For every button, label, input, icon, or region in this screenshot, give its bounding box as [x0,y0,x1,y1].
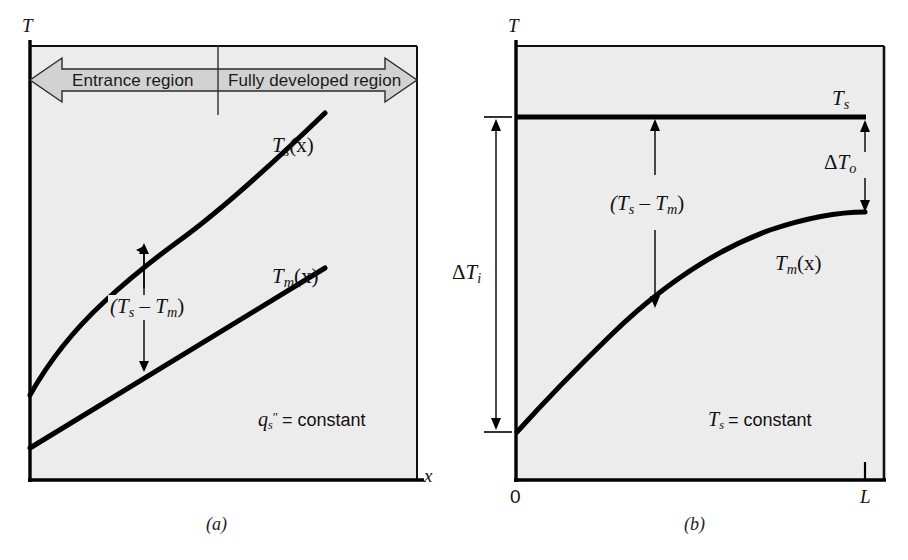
panel-a-mean-curve-label: Tm(x) [272,266,319,289]
panel-a-surface-curve-label-arg: (x) [289,133,314,157]
minus-sign: – [634,191,655,215]
panel-b-y-axis-label: T [508,16,519,35]
surface-temp-symbol-sub: s [719,418,724,432]
panel-b-mean-curve-label-T: T [775,251,787,275]
panel-b-mean-curve-label-sub: m [787,261,797,277]
panel-b-condition-note: Ts= constant [708,409,811,432]
panel-a-caption: (a) [206,515,227,533]
heat-flux-constant-text: = constant [282,410,366,430]
panel-b-caption: (b) [684,515,705,533]
second-T: T [655,191,667,215]
minus-sign: – [134,294,155,318]
panel-a-mean-curve-label-arg: (x) [294,264,319,288]
first-T: T [117,294,129,318]
thermal-entry-figure: T x Entrance region Fully developed regi… [0,0,908,560]
panel-a-mean-curve-label-T: T [272,264,284,288]
panel-b-temperature-difference-label: (Ts – Tm) [608,192,686,217]
panel-b-surface-line-label-sub: s [844,96,850,112]
first-T: T [617,191,629,215]
paren-close: ) [177,294,184,318]
panel-b-mean-curve-label-arg: (x) [797,251,822,275]
panel-a-mean-curve-label-sub: m [284,274,294,290]
panel-b-surface-line-label: Ts [832,88,849,111]
surface-temp-symbol: T [708,408,719,430]
panel-a-y-axis-label: T [22,16,33,35]
panel-b-mean-curve-label: Tm(x) [775,253,822,276]
heat-flux-symbol-sup: ″ [273,409,278,424]
panel-b-surface-line-label-T: T [832,86,844,110]
entrance-region-label: Entrance region [72,72,194,89]
second-T: T [155,294,167,318]
panel-b-x-tick-label-0: 0 [510,487,521,506]
panel-a-condition-note: qs″= constant [258,409,365,432]
panel-a-surface-curve-label: Ts(x) [272,135,314,158]
panel-a-temperature-difference-label: (Ts – Tm) [108,295,186,320]
surface-temp-constant-text: = constant [728,410,812,430]
fully-developed-region-label: Fully developed region [228,72,401,89]
second-T-sub: m [167,304,177,320]
delta-Ti-T: T [466,260,478,284]
second-T-sub: m [667,201,677,217]
paren-open: ( [610,191,617,215]
delta-To-T: T [838,150,850,174]
paren-close: ) [677,191,684,215]
panel-b-delta-Ti-label: ΔTi [452,262,481,285]
paren-open: ( [110,294,117,318]
panel-b-x-tick-label-L: L [860,487,871,506]
panel-a-surface-curve-label-T: T [272,133,284,157]
panel-b-delta-To-label: ΔTo [824,152,856,175]
delta-Ti-sub: i [477,270,481,286]
panel-b-plot-area [514,40,886,482]
panel-a-x-axis-label: x [424,466,432,485]
delta-Ti-delta: Δ [452,260,466,284]
panel-b-delta-Ti-arrow [484,117,512,432]
delta-To-delta: Δ [824,150,838,174]
delta-To-sub: o [849,160,856,176]
heat-flux-symbol: q [258,408,268,430]
